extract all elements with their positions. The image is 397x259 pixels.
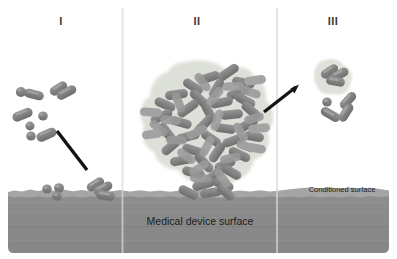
stage-label-ii: II [193,15,200,27]
coccus-cell [42,184,52,193]
rod-cell [140,107,163,117]
stage-label-i: I [59,15,63,27]
figure-canvas: I II III Medical device surface Conditio… [0,0,397,259]
coccus-cell [26,131,36,140]
coccus-highlight [27,123,31,126]
rod-cell [166,136,187,145]
divider-2-3-over-slab [276,188,278,253]
coccus-cell [322,97,332,106]
coccus-highlight [39,113,43,116]
coccus-cell [54,183,64,193]
coccus-cell [52,191,62,200]
coccus-cell [38,111,48,120]
stage-label-iii: III [328,15,339,27]
divider-1-2-over-slab [122,190,124,253]
coccus-cell [25,122,34,131]
coccus-highlight [28,133,32,136]
conditioned-surface-label: Conditioned surface [309,185,376,194]
medical-device-surface-label: Medical device surface [147,215,254,227]
rod-cell [190,173,212,183]
coccus-highlight [17,88,22,92]
